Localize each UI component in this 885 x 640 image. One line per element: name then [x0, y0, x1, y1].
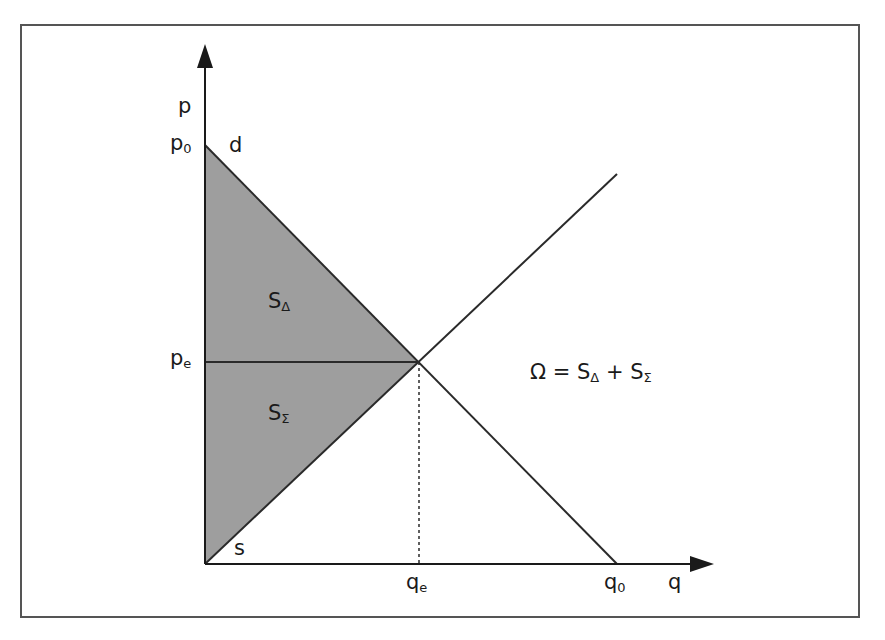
consumer-surplus-label: SΔ — [268, 291, 290, 312]
p0-label: p0 — [170, 133, 192, 154]
pe-sub: e — [183, 356, 191, 371]
x-axis-label: q — [668, 572, 681, 593]
total-surplus-area — [205, 145, 419, 564]
cs-main: S — [268, 289, 281, 313]
supply-label: s — [234, 538, 245, 559]
cs-sub: Δ — [281, 299, 290, 314]
x-axis-arrow-icon — [690, 556, 714, 572]
ps-sub: Σ — [281, 411, 289, 426]
y-axis-arrow-icon — [197, 44, 213, 68]
p0-sub: 0 — [183, 141, 191, 156]
producer-surplus-label: SΣ — [268, 403, 290, 424]
y-axis-label: p — [178, 96, 191, 117]
total-surplus-equation: Ω = SΔ + SΣ — [530, 362, 652, 383]
equation-sub2: Σ — [644, 370, 652, 385]
equation-lhs: Ω = S — [530, 360, 590, 384]
ps-main: S — [268, 401, 281, 425]
q0-sub: 0 — [617, 580, 625, 595]
q0-main: q — [604, 570, 617, 594]
supply-demand-diagram — [0, 0, 885, 640]
equation-plus: + S — [599, 360, 643, 384]
q0-label: q0 — [604, 572, 626, 593]
p0-main: p — [170, 131, 183, 155]
pe-label: pe — [170, 348, 191, 369]
qe-main: q — [406, 570, 419, 594]
pe-main: p — [170, 346, 183, 370]
qe-sub: e — [419, 580, 427, 595]
equation-sub1: Δ — [590, 370, 599, 385]
qe-label: qe — [406, 572, 427, 593]
demand-label: d — [229, 135, 242, 156]
